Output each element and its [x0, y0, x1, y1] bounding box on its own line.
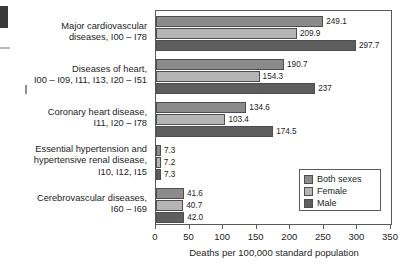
bar-value-label: 7.2 [164, 157, 175, 168]
x-axis-tick-label: 100 [214, 231, 230, 243]
category-label-line: I11, I20 – I78 [48, 118, 147, 129]
chart-legend: Both sexesFemaleMale [299, 169, 381, 211]
bar [156, 16, 323, 27]
bar [156, 28, 297, 39]
category-label-line: Diseases of heart, [34, 64, 147, 75]
category-label: Diseases of heart,I00 – I09, I11, I13, I… [34, 64, 147, 86]
x-axis-tick [256, 225, 257, 229]
x-axis-tick-label: 200 [281, 231, 297, 243]
bar [156, 157, 161, 168]
category-label-line: I60 – I69 [37, 204, 147, 215]
x-axis-tick [390, 225, 391, 229]
legend-swatch-both [304, 175, 313, 184]
bar [156, 200, 183, 211]
x-axis-tick [189, 225, 190, 229]
x-axis-tick-labels: 050100150200250300350 [155, 231, 393, 243]
category-label-line: I10, I12, I15 [34, 167, 147, 178]
legend-item: Male [304, 197, 377, 209]
chart-screenshot: Major cardiovasculardiseases, I00 – I78D… [0, 0, 410, 268]
bar [156, 169, 161, 180]
bar-value-label: 41.6 [187, 188, 203, 199]
x-axis-tick [222, 225, 223, 229]
bar-value-label: 174.5 [276, 126, 297, 137]
bar [156, 126, 273, 137]
legend-label: Female [317, 186, 347, 197]
bar-value-label: 40.7 [186, 200, 202, 211]
bar [156, 83, 315, 94]
x-axis-tick-label: 300 [348, 231, 364, 243]
x-axis-title: Deaths per 100,000 standard population [155, 247, 393, 259]
category-label-line: Major cardiovascular [61, 21, 147, 32]
x-axis-tick-label: 250 [315, 231, 331, 243]
bar-value-label: 134.6 [249, 102, 270, 113]
category-label-line: Cerebrovascular diseases, [37, 193, 147, 204]
legend-item: Both sexes [304, 173, 377, 185]
bar-value-label: 190.7 [287, 59, 308, 70]
bar-value-label: 209.9 [300, 28, 321, 39]
category-label-line: I00 – I09, I11, I13, I20 – I51 [34, 75, 147, 86]
x-axis-tick [289, 225, 290, 229]
category-label-line: diseases, I00 – I78 [61, 32, 147, 43]
legend-label: Male [317, 198, 337, 209]
bar-value-label: 297.7 [359, 40, 380, 51]
bar-value-label: 249.1 [326, 16, 347, 27]
bar [156, 102, 246, 113]
category-label-line: Coronary heart disease, [48, 107, 147, 118]
bar-value-label: 154.3 [263, 71, 284, 82]
x-axis-tick [323, 225, 324, 229]
category-label: Essential hypertension andhypertensive r… [34, 144, 147, 178]
bar-value-label: 237 [318, 83, 332, 94]
x-axis-tick [356, 225, 357, 229]
category-label: Major cardiovasculardiseases, I00 – I78 [61, 21, 147, 43]
bar [156, 71, 260, 82]
bar-value-label: 7.3 [164, 169, 175, 180]
x-axis-tick-label: 0 [152, 231, 157, 243]
category-label-line: hypertensive renal disease, [34, 155, 147, 166]
x-axis-tick-label: 350 [382, 231, 398, 243]
category-label: Cerebrovascular diseases,I60 – I69 [37, 193, 147, 215]
bar-value-label: 42.0 [187, 212, 203, 223]
x-axis-tick-label: 50 [183, 231, 194, 243]
bar [156, 212, 184, 223]
bar-value-label: 7.3 [164, 145, 175, 156]
bar [156, 145, 161, 156]
bar [156, 40, 356, 51]
bar [156, 114, 225, 125]
category-label: Coronary heart disease,I11, I20 – I78 [48, 107, 147, 129]
x-axis-tick-label: 150 [248, 231, 264, 243]
x-axis-ticks [155, 225, 393, 230]
legend-item: Female [304, 185, 377, 197]
bar [156, 188, 184, 199]
bar-value-label: 103.4 [228, 114, 249, 125]
legend-label: Both sexes [317, 174, 362, 185]
legend-swatch-male [304, 199, 313, 208]
bar [156, 59, 284, 70]
category-axis-labels: Major cardiovasculardiseases, I00 – I78D… [0, 10, 152, 225]
x-axis-tick [155, 225, 156, 229]
category-label-line: Essential hypertension and [34, 144, 147, 155]
legend-swatch-female [304, 187, 313, 196]
